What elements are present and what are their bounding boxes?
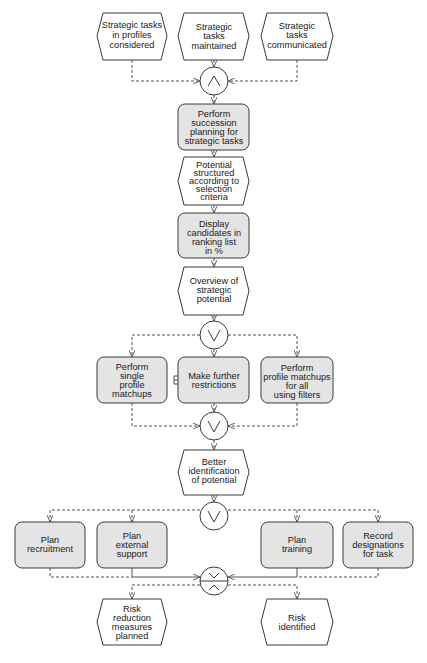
event-risk-identified[interactable]: Risk identified bbox=[261, 599, 333, 645]
svg-text:recruitment: recruitment bbox=[27, 544, 73, 554]
svg-text:support: support bbox=[117, 549, 148, 559]
svg-text:planned: planned bbox=[116, 631, 149, 641]
function-perform-succession-planning[interactable]: Perform succession planning for strategi… bbox=[178, 104, 249, 150]
svg-text:maintained: maintained bbox=[192, 41, 237, 51]
svg-text:potential: potential bbox=[197, 294, 232, 304]
connector-and[interactable] bbox=[200, 67, 228, 95]
svg-text:strategic tasks: strategic tasks bbox=[185, 136, 244, 146]
svg-text:criteria: criteria bbox=[200, 192, 228, 202]
flow-f9-c5 bbox=[297, 568, 378, 577]
svg-text:using filters: using filters bbox=[274, 390, 321, 400]
flow-e1-c1 bbox=[132, 60, 200, 81]
event-potential-structured[interactable]: Potential structured according to select… bbox=[178, 157, 249, 205]
flow-c5-e7 bbox=[132, 585, 200, 599]
connector-or-split-1[interactable] bbox=[200, 321, 228, 349]
svg-text:restrictions: restrictions bbox=[192, 380, 237, 390]
svg-text:matchups: matchups bbox=[112, 389, 152, 399]
event-strategic-tasks-maintained[interactable]: Strategic tasks maintained bbox=[178, 13, 249, 60]
event-risk-reduction-measures-planned[interactable]: Risk reduction measures planned bbox=[97, 599, 167, 645]
function-plan-training[interactable]: Plan training bbox=[261, 522, 333, 568]
function-plan-external-support[interactable]: Plan external support bbox=[97, 522, 167, 568]
flow-e3-c1 bbox=[228, 60, 297, 81]
function-plan-recruitment[interactable]: Plan recruitment bbox=[15, 522, 85, 568]
svg-text:communicated: communicated bbox=[267, 40, 327, 50]
connector-xor[interactable] bbox=[200, 567, 228, 595]
flow-c2-f5 bbox=[228, 335, 297, 357]
svg-text:considered: considered bbox=[110, 40, 155, 50]
flow-c4-f9 bbox=[228, 510, 378, 522]
flow-f6-c5 bbox=[50, 568, 132, 577]
svg-text:of potential: of potential bbox=[192, 475, 237, 485]
svg-text:Strategic tasks: Strategic tasks bbox=[102, 20, 163, 30]
event-strategic-tasks-in-profiles-considered[interactable]: Strategic tasks in profiles considered bbox=[97, 13, 167, 60]
function-perform-single-profile-matchups[interactable]: Perform single profile matchups bbox=[97, 357, 167, 403]
flow-c2-f3 bbox=[132, 335, 200, 357]
process-interface-marker-icon bbox=[174, 376, 178, 384]
svg-text:tasks: tasks bbox=[203, 31, 225, 41]
flow-c5-e8 bbox=[228, 585, 297, 599]
function-display-candidates-ranking[interactable]: Display candidates in ranking list in % bbox=[178, 213, 249, 258]
flow-f3-c3 bbox=[132, 403, 200, 426]
flow-f5-c3 bbox=[228, 403, 297, 426]
svg-text:in profiles: in profiles bbox=[112, 30, 152, 40]
svg-text:for task: for task bbox=[363, 549, 394, 559]
event-overview-of-strategic-potential[interactable]: Overview of strategic potential bbox=[178, 267, 249, 315]
svg-text:in %: in % bbox=[205, 246, 223, 256]
function-perform-profile-matchups-for-all[interactable]: Perform profile matchups for all using f… bbox=[261, 357, 333, 403]
connector-or-split-2[interactable] bbox=[200, 502, 228, 530]
flow-c4-f6 bbox=[50, 510, 200, 522]
flow-f7-c5 bbox=[132, 568, 200, 577]
svg-text:identified: identified bbox=[279, 622, 316, 632]
svg-text:tasks: tasks bbox=[286, 30, 308, 40]
event-better-identification-of-potential[interactable]: Better identification of potential bbox=[178, 450, 249, 495]
function-make-further-restrictions[interactable]: Make further restrictions bbox=[174, 357, 249, 403]
epc-diagram: Strategic tasks in profiles considered S… bbox=[0, 0, 427, 663]
svg-text:training: training bbox=[282, 544, 312, 554]
event-strategic-tasks-communicated[interactable]: Strategic tasks communicated bbox=[261, 13, 333, 60]
flow-f8-c5 bbox=[228, 568, 297, 577]
function-record-designations-for-task[interactable]: Record designations for task bbox=[343, 522, 413, 568]
connector-or-merge[interactable] bbox=[200, 412, 228, 440]
